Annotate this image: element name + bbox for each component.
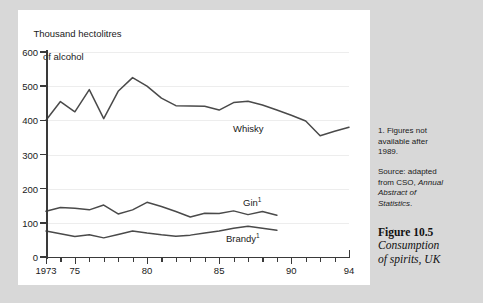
x-axis-tick-1993 (335, 257, 336, 262)
y-axis-label-600: 600 (4, 47, 38, 58)
x-axis-tick-1974 (60, 257, 61, 262)
x-axis-tick-1992 (320, 257, 321, 262)
series-lines (46, 52, 349, 257)
side-column: 1. Figures not available after 1989. Sou… (378, 0, 483, 303)
x-axis-tick-1979 (133, 257, 134, 262)
source-block: Source: adapted from CSO, Annual Abstrac… (378, 167, 478, 209)
x-axis-tick-1976 (89, 257, 90, 262)
y-axis-label-100: 100 (4, 217, 38, 228)
y-axis-title-line1: Thousand hectolitres (33, 28, 121, 39)
x-axis-label-1990: 90 (286, 265, 297, 276)
y-axis-tick-200 (40, 188, 46, 189)
plot-area (46, 52, 349, 257)
x-axis-tick-1977 (104, 257, 105, 262)
series-label-gin: Gin1 (243, 196, 261, 208)
x-axis-label-1973: 1973 (35, 265, 56, 276)
y-axis-label-400: 400 (4, 115, 38, 126)
figure-title-line1: Consumption (378, 239, 478, 253)
x-axis-label-1975: 75 (70, 265, 81, 276)
y-axis-label-300: 300 (4, 149, 38, 160)
footnote-line-3: 1989. (378, 147, 478, 158)
x-axis-tick-1987 (248, 257, 249, 262)
x-axis-line (46, 257, 350, 259)
brandy-footnote-marker: 1 (256, 232, 260, 239)
y-axis-tick-300 (40, 154, 46, 155)
y-axis-labels: 0100200300400500600 (0, 0, 38, 303)
x-axis-tick-1985 (219, 257, 220, 264)
x-axis-tick-1983 (190, 257, 191, 262)
x-axis-tick-1989 (277, 257, 278, 262)
x-axis-tick-1975 (75, 257, 76, 264)
y-axis-label-500: 500 (4, 81, 38, 92)
figure-number: Figure 10.5 (378, 225, 478, 239)
figure-caption: Figure 10.5 Consumption of spirits, UK (378, 225, 478, 266)
y-axis-tick-600 (40, 51, 46, 52)
x-axis-tick-1984 (205, 257, 206, 262)
y-axis-line (46, 50, 48, 259)
source-line-3: Abstract of (378, 188, 478, 199)
x-axis-tick-1978 (118, 257, 119, 262)
y-axis-tick-100 (40, 222, 46, 223)
y-axis-label-0: 0 (4, 252, 38, 263)
x-axis-label-1985: 85 (214, 265, 225, 276)
chart-figure: Thousand hectolitres of alcohol 01002003… (0, 0, 483, 303)
source-line-1: Source: adapted (378, 167, 478, 178)
footnote-block: 1. Figures not available after 1989. (378, 126, 478, 158)
footnote-line-2: available after (378, 137, 478, 148)
y-axis-label-200: 200 (4, 183, 38, 194)
x-axis-tick-1991 (306, 257, 307, 262)
source-line-2: from CSO, Annual (378, 178, 478, 189)
x-axis-label-1994: 94 (344, 265, 355, 276)
x-axis-tick-1988 (262, 257, 263, 262)
y-axis-tick-500 (40, 85, 46, 86)
x-axis-tick-1990 (291, 257, 292, 264)
x-axis-tick-1973 (46, 257, 47, 264)
source-line-4: Statistics. (378, 199, 478, 210)
series-line-whisky (46, 78, 349, 136)
x-axis-tick-1994 (349, 250, 350, 258)
y-axis-tick-400 (40, 120, 46, 121)
x-axis-label-1980: 80 (142, 265, 153, 276)
series-label-brandy: Brandy1 (226, 232, 260, 244)
x-axis-tick-1982 (176, 257, 177, 262)
gin-footnote-marker: 1 (258, 196, 262, 203)
x-axis-tick-1986 (234, 257, 235, 262)
x-axis-tick-1980 (147, 257, 148, 264)
x-axis-tick-1981 (161, 257, 162, 262)
figure-title-line2: of spirits, UK (378, 253, 478, 267)
footnote-line-1: 1. Figures not (378, 126, 478, 137)
series-label-whisky: Whisky (233, 123, 264, 134)
